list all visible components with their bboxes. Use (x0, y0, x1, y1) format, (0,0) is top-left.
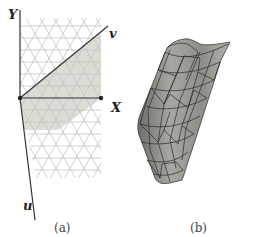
panel-b (138, 39, 230, 184)
shaded-region (20, 32, 101, 130)
rolled-surface (138, 39, 230, 184)
y-axis-label: Y (8, 8, 17, 21)
u-vector-label: u (23, 199, 32, 212)
origin-dot (18, 96, 22, 100)
v-vector-label: v (109, 27, 117, 40)
caption-a: (a) (54, 222, 71, 234)
caption-b: (b) (190, 222, 207, 234)
x-end-dot (99, 96, 103, 100)
figure-canvas (0, 0, 263, 237)
x-axis-label: X (111, 101, 121, 114)
